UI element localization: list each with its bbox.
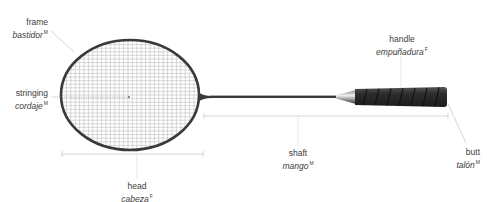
- label-shaft: shaft mangoM: [278, 148, 318, 171]
- label-frame-en: frame: [8, 17, 48, 27]
- label-butt-es: talónM: [440, 157, 480, 170]
- label-handle: handle empuñaduraF: [376, 34, 428, 57]
- label-frame: frame bastidorM: [8, 17, 48, 40]
- label-handle-es: empuñaduraF: [376, 44, 428, 57]
- frame-leader: [51, 31, 74, 52]
- label-stringing-en: stringing: [4, 88, 48, 98]
- racket-taper: [336, 90, 356, 104]
- racket-throat: [198, 92, 212, 102]
- label-stringing: stringing cordajeM: [4, 88, 48, 111]
- label-stringing-es: cordajeM: [4, 98, 48, 111]
- label-frame-es: bastidorM: [8, 27, 48, 40]
- butt-leader: [448, 104, 466, 143]
- label-butt: butt talónM: [440, 147, 480, 170]
- label-shaft-es: mangoM: [278, 158, 318, 171]
- stringing-center-dot: [128, 96, 130, 98]
- label-head-es: cabezaF: [117, 191, 157, 202]
- label-handle-en: handle: [376, 34, 428, 44]
- racket-handle: [355, 87, 447, 107]
- racket-diagram: [0, 0, 487, 202]
- label-head-en: head: [117, 181, 157, 191]
- label-shaft-en: shaft: [278, 148, 318, 158]
- label-butt-en: butt: [440, 147, 480, 157]
- label-head: head cabezaF: [117, 181, 157, 202]
- racket-shaft: [210, 96, 338, 98]
